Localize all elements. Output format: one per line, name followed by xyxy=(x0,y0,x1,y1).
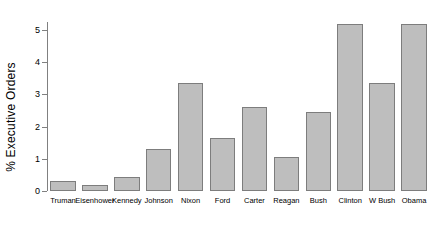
bar-chart: % Executive Orders 012345 TrumanEisenhow… xyxy=(0,0,434,234)
bar-ford xyxy=(210,138,236,191)
x-label-kennedy: Kennedy xyxy=(112,196,142,205)
y-tick-label: 2 xyxy=(35,122,40,132)
plot-area: 012345 xyxy=(47,14,430,191)
x-label-eisenhower: Eisenhower xyxy=(75,196,114,205)
bar-w-bush xyxy=(369,83,395,191)
y-tick-label: 5 xyxy=(35,25,40,35)
x-label-carter: Carter xyxy=(244,196,265,205)
y-axis-title: % Executive Orders xyxy=(0,0,22,234)
bar-series xyxy=(47,14,430,191)
y-tick-mark xyxy=(42,191,47,192)
y-tick-label: 1 xyxy=(35,154,40,164)
x-label-clinton: Clinton xyxy=(339,196,362,205)
bar-obama xyxy=(401,24,427,191)
x-label-nixon: Nixon xyxy=(181,196,200,205)
bar-carter xyxy=(242,107,268,191)
bar-eisenhower xyxy=(82,185,108,191)
bar-bush xyxy=(306,112,332,191)
bar-nixon xyxy=(178,83,204,191)
x-label-truman: Truman xyxy=(50,196,76,205)
x-label-reagan: Reagan xyxy=(273,196,299,205)
bar-truman xyxy=(50,181,76,191)
bar-reagan xyxy=(274,157,300,191)
x-axis-labels: TrumanEisenhowerKennedyJohnsonNixonFordC… xyxy=(47,196,430,212)
x-label-obama: Obama xyxy=(402,196,427,205)
y-tick-label: 4 xyxy=(35,57,40,67)
bar-kennedy xyxy=(114,177,140,191)
y-tick-label: 3 xyxy=(35,89,40,99)
bar-clinton xyxy=(337,24,363,191)
x-label-bush: Bush xyxy=(310,196,327,205)
x-label-w-bush: W Bush xyxy=(369,196,395,205)
x-label-johnson: Johnson xyxy=(145,196,173,205)
bar-johnson xyxy=(146,149,172,191)
y-tick-label: 0 xyxy=(35,186,40,196)
x-label-ford: Ford xyxy=(215,196,230,205)
